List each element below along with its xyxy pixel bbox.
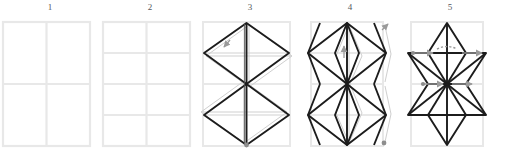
panel-3-corner-marker (244, 143, 249, 148)
panel-3-number: 3 (200, 1, 300, 13)
panel-2-number: 2 (100, 1, 200, 13)
panel-4-fold-lines (308, 23, 386, 145)
panel-1-grid (3, 22, 90, 146)
panel-1: 1 (0, 0, 100, 153)
panel-1-figure (0, 14, 100, 153)
panel-5: 5 (400, 0, 500, 153)
panel-1-number: 1 (0, 1, 100, 13)
panel-4-figure (300, 14, 400, 153)
panel-5-number: 5 (400, 1, 500, 13)
panel-3: 3 (200, 0, 300, 153)
panel-5-figure (400, 14, 500, 153)
panel-3-figure (200, 14, 300, 153)
panel-2-grid (103, 22, 190, 146)
arrow-dot-center-left (421, 82, 425, 86)
folding-step-sequence: 1 2 (0, 0, 522, 153)
panel-4-number: 4 (300, 1, 400, 13)
panel-2-figure (100, 14, 200, 153)
arrow-dot-upper-left (411, 51, 415, 55)
panel-4: 4 (300, 0, 400, 153)
panel-4-corner-marker (382, 141, 387, 146)
panel-2: 2 (100, 0, 200, 153)
